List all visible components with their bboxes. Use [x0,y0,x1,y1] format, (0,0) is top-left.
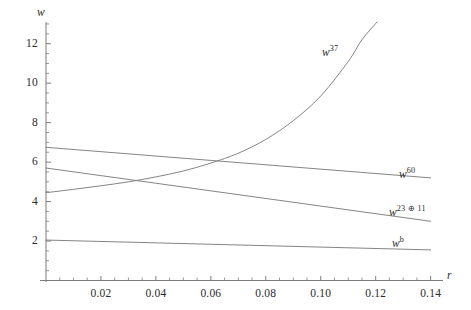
y-tick-label: 8 [10,116,38,128]
curve-label-w23x11-exponent: 23 ⊕ 11 [397,204,426,213]
x-tick-label: 0.02 [79,287,123,299]
y-axis-label: w [37,6,45,18]
curve-w-60 [46,147,431,178]
data-curves [46,22,431,250]
x-tick-label: 0.04 [134,287,178,299]
curve-label-wb-exponent: b [400,235,404,244]
curve-label-w37: w37 [322,44,338,58]
x-axis-ticks [60,276,431,281]
x-tick-label: 0.12 [354,287,398,299]
curve-w-b [46,240,431,250]
x-tick-label: 0.14 [409,287,453,299]
curve-w-23-11 [46,168,431,221]
curve-label-w37-exponent: 37 [330,44,339,53]
curve-label-w23x11-base: w [389,206,397,218]
figure-plot-w-vs-r: w r 24681012 0.020.040.060.080.100.120.1… [0,0,471,310]
y-tick-label: 10 [10,76,38,88]
y-tick-label: 2 [10,234,38,246]
curve-label-w60: w60 [399,166,415,180]
curve-label-w37-base: w [322,46,330,58]
x-tick-label: 0.06 [189,287,233,299]
curve-label-w23x11: w23 ⊕ 11 [389,203,426,218]
x-tick-label: 0.08 [244,287,288,299]
curve-label-w60-exponent: 60 [407,166,416,175]
x-axis-label: r [447,269,451,281]
curve-label-wb: wb [392,235,404,249]
y-tick-label: 6 [10,155,38,167]
y-tick-label: 12 [10,37,38,49]
plot-canvas [0,0,471,310]
curve-label-w60-base: w [399,168,407,180]
y-tick-label: 4 [10,195,38,207]
x-tick-label: 0.10 [299,287,343,299]
curve-label-wb-base: w [392,237,400,249]
